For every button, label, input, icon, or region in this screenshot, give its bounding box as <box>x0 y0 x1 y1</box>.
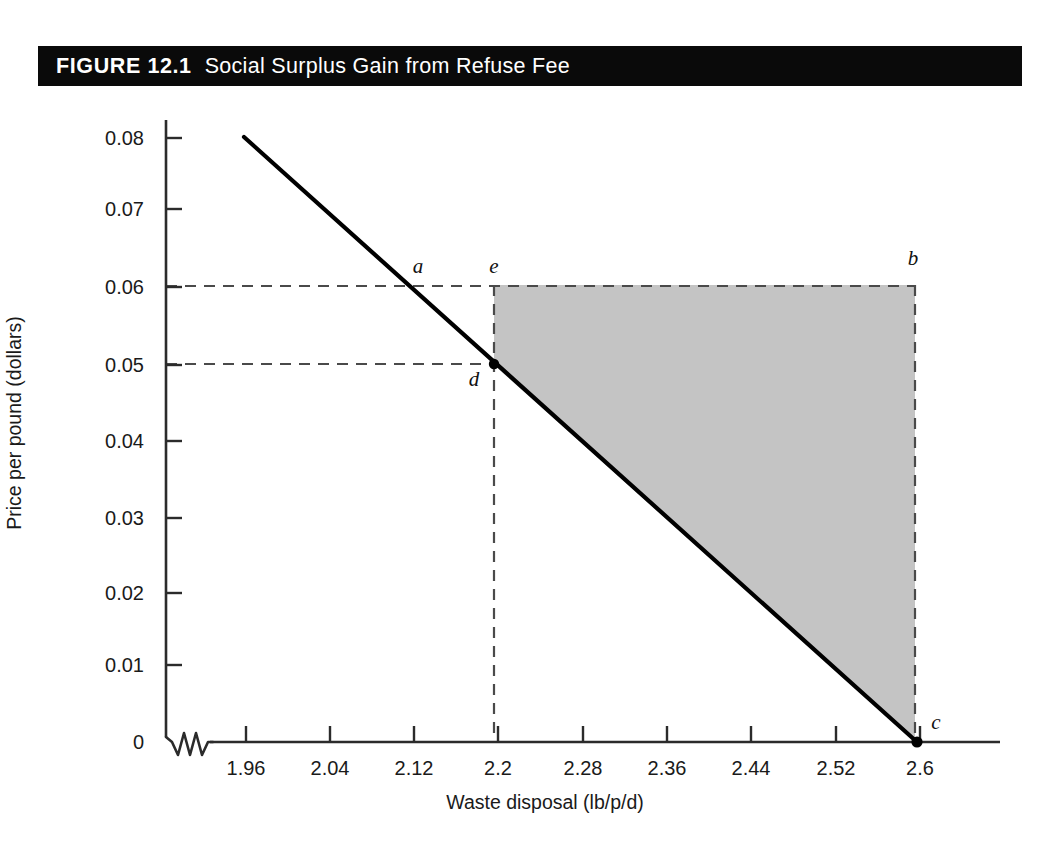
data-point-d <box>489 359 499 369</box>
y-tick-label-0-01: 0.01 <box>40 654 144 677</box>
x-tick-label-2-6: 2.6 <box>906 757 934 780</box>
y-tick-label-0-04: 0.04 <box>40 430 144 453</box>
x-tick-label-2-04: 2.04 <box>311 757 350 780</box>
chart-canvas <box>0 0 1059 847</box>
x-tick-label-2-52: 2.52 <box>817 757 856 780</box>
y-tick-label-0: 0 <box>40 731 144 754</box>
chart-figure: 0.08 0.07 0.06 0.05 0.04 0.03 0.02 0.01 … <box>0 0 1059 847</box>
point-label-a: a <box>413 254 424 279</box>
y-tick-label-0-05: 0.05 <box>40 354 144 377</box>
y-tick-label-0-08: 0.08 <box>40 127 144 150</box>
y-tick-label-0-07: 0.07 <box>40 198 144 221</box>
x-axis-break-zigzag <box>166 733 213 755</box>
point-label-e: e <box>489 254 498 279</box>
point-label-c: c <box>931 710 940 735</box>
x-tick-label-2-44: 2.44 <box>732 757 771 780</box>
data-point-c <box>911 736 922 747</box>
x-axis-title: Waste disposal (lb/p/d) <box>446 791 644 814</box>
y-axis-title: Price per pound (dollars) <box>3 316 26 530</box>
x-tick-label-2-2: 2.2 <box>484 757 512 780</box>
x-axis-ticks <box>246 726 920 742</box>
shaded-surplus-region <box>494 285 915 741</box>
y-tick-label-0-03: 0.03 <box>40 507 144 530</box>
x-tick-label-2-12: 2.12 <box>395 757 434 780</box>
point-label-d: d <box>469 367 480 392</box>
y-axis-ticks <box>166 138 182 665</box>
x-tick-label-2-28: 2.28 <box>564 757 603 780</box>
x-tick-label-2-36: 2.36 <box>648 757 687 780</box>
y-tick-label-0-06: 0.06 <box>40 276 144 299</box>
y-tick-label-0-02: 0.02 <box>40 582 144 605</box>
point-label-b: b <box>908 246 919 271</box>
x-tick-label-1-96: 1.96 <box>227 757 266 780</box>
